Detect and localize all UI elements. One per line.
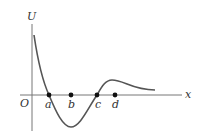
x-axis-label: x xyxy=(185,88,192,101)
point-a xyxy=(47,93,52,98)
potential-energy-diagram: U x O a b c d xyxy=(0,0,201,138)
point-d xyxy=(113,93,118,98)
potential-curve xyxy=(34,35,155,127)
point-c xyxy=(95,93,100,98)
label-a: a xyxy=(45,98,52,111)
label-b: b xyxy=(68,98,75,111)
label-d: d xyxy=(112,98,119,111)
origin-label: O xyxy=(20,97,29,110)
label-c: c xyxy=(95,98,101,111)
point-b xyxy=(69,93,74,98)
u-axis-label: U xyxy=(27,10,37,23)
